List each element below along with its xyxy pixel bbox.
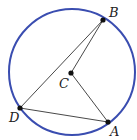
point-c bbox=[68, 70, 73, 75]
points bbox=[17, 17, 110, 124]
point-labels: ABCD bbox=[8, 5, 119, 139]
segment-da bbox=[20, 108, 108, 122]
label-c: C bbox=[59, 76, 69, 91]
label-d: D bbox=[8, 110, 20, 125]
label-b: B bbox=[108, 5, 119, 20]
segment-ac bbox=[71, 73, 108, 122]
point-b bbox=[100, 17, 105, 22]
circle-diagram: ABCD bbox=[0, 0, 137, 140]
segment-cb bbox=[71, 20, 103, 73]
segments bbox=[20, 20, 108, 122]
label-a: A bbox=[109, 124, 119, 139]
segment-bd bbox=[20, 20, 103, 108]
